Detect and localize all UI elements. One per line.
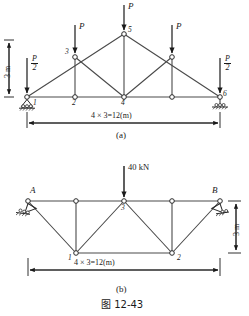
node-label-b-2: 2 [177,254,181,262]
height-dimension-label-a: 3 m [3,66,12,78]
node-label-a-3: 3 [65,48,69,56]
node-label-b-B: B [212,186,218,195]
subfigure-label-b: (b) [116,285,127,294]
support-roller-nodeB [212,201,229,216]
load-label-right-half-P: P 2 [224,55,231,73]
span-dimension-label-b: 4 × 3=12(m) [74,259,115,267]
height-dimension-label-b: 3 m [232,224,241,236]
truss-drawing [0,0,249,316]
node-label-a-4: 4 [121,99,125,107]
support-roller-node6 [212,99,228,109]
diagram-b-span-dimension [28,258,220,276]
diagram-a-members [27,34,220,97]
span-dimension-label-a: 4 × 3=12(m) [91,112,132,120]
load-label-left-half-P: P 2 [31,55,38,73]
node-label-a-1: 1 [33,99,37,107]
node-label-b-A: A [30,186,36,195]
load-label-40kN: 40 kN [128,163,149,172]
subfigure-label-a: (a) [116,131,126,140]
node-label-b-3: 3 [121,204,125,212]
node-label-a-6: 6 [223,90,227,98]
support-pin-nodeA [16,201,36,216]
figure-container: P 2 P P P P 2 1 2 4 6 3 5 3 m 4 × 3=12(m… [0,0,249,316]
node-label-a-2: 2 [72,99,76,107]
figure-caption: 图 12-43 [101,300,143,310]
node-label-b-1: 1 [68,254,72,262]
load-label-P-node5: P [128,2,134,11]
node-label-a-5: 5 [128,26,132,34]
load-label-P-node-right: P [176,22,182,31]
load-label-P-node3: P [79,22,85,31]
